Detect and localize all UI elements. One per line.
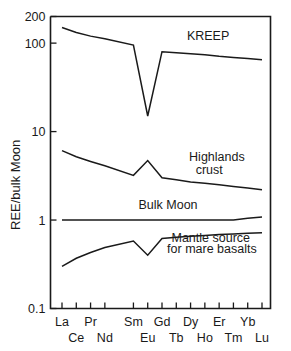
x-axis-element-label: Gd [154,315,171,329]
x-axis-element-label: Sm [124,315,143,329]
series-annotation: crust [196,163,224,177]
series-annotations: KREEPHighlandscrustBulk MoonMantle sourc… [139,29,257,256]
y-axis-tick-labels: 2001001010.1 [25,10,46,316]
y-axis-tick-label: 0.1 [28,302,45,316]
x-axis-element-label: Tm [224,331,242,345]
series-annotation: for mare basalts [167,242,257,256]
x-axis-element-label: Ho [197,331,213,345]
x-axis-element-label: Er [213,315,226,329]
x-axis-element-label: Dy [183,315,199,329]
x-axis-element-labels: LaCePrNdSmEuGdTbDyHoErTmYbLu [55,315,269,345]
x-axis-element-label: Eu [140,331,155,345]
ree-abundance-chart: 2001001010.1 LaCePrNdSmEuGdTbDyHoErTmYbL… [0,0,291,351]
x-axis-element-label: Lu [255,331,269,345]
x-axis-element-label: Nd [97,331,113,345]
series-annotation: KREEP [187,29,229,43]
y-axis-title: REE/bulk Moon [8,140,23,230]
series-line [62,217,262,220]
series-annotation: Bulk Moon [139,198,198,212]
x-axis-element-label: Yb [240,315,255,329]
y-axis-tick-label: 200 [25,10,46,24]
x-axis-element-label: Pr [84,315,97,329]
x-axis-ticks [62,303,262,309]
x-axis-element-label: Ce [68,331,84,345]
series-line [62,28,262,116]
y-axis-tick-label: 1 [39,214,46,228]
chart-svg: 2001001010.1 LaCePrNdSmEuGdTbDyHoErTmYbL… [0,0,291,351]
x-axis-element-label: Tb [169,331,184,345]
x-axis-element-label: La [55,315,69,329]
y-axis-tick-label: 100 [25,37,46,51]
y-axis-ticks [51,17,57,309]
y-axis-tick-label: 10 [32,125,46,139]
